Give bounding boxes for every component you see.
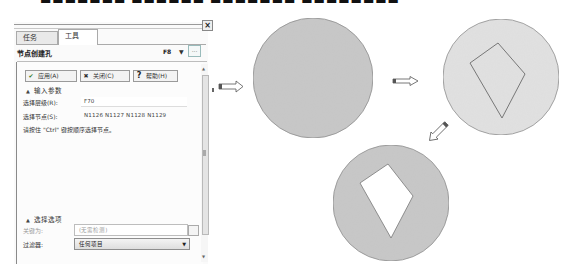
arrow-right-icon [219, 81, 243, 92]
hole-creation-diagram [0, 0, 574, 270]
arrow-right-icon [393, 77, 418, 86]
arrow-down-left-icon [426, 120, 450, 144]
circle-with-kite-outline [443, 19, 559, 135]
plain-circle [253, 18, 373, 138]
circle-with-kite-hole [333, 145, 449, 261]
